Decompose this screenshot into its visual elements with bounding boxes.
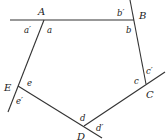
exterior-angle-e-prime: e′ bbox=[16, 96, 23, 106]
vertex-label-e: E bbox=[3, 82, 12, 93]
vertex-label-a: A bbox=[37, 6, 45, 17]
pentagon-exterior-angles-diagram: A B C D E a b c d e a′ b′ c′ d′ e′ bbox=[0, 0, 168, 140]
exterior-angle-b-prime: b′ bbox=[117, 8, 124, 18]
exterior-angle-d-prime: d′ bbox=[96, 123, 103, 133]
interior-angle-a: a bbox=[47, 25, 52, 35]
vertex-label-c: C bbox=[146, 89, 154, 100]
vertex-label-b: B bbox=[138, 10, 146, 21]
exterior-angle-a-prime: a′ bbox=[24, 25, 31, 35]
interior-angle-c: c bbox=[134, 76, 139, 86]
exterior-angle-c-prime: c′ bbox=[146, 66, 153, 76]
interior-angle-b: b bbox=[126, 25, 131, 35]
vertex-label-d: D bbox=[76, 131, 85, 140]
line-ed-extended bbox=[18, 86, 102, 138]
interior-angle-d: d bbox=[80, 113, 86, 123]
interior-angle-e: e bbox=[27, 78, 32, 88]
